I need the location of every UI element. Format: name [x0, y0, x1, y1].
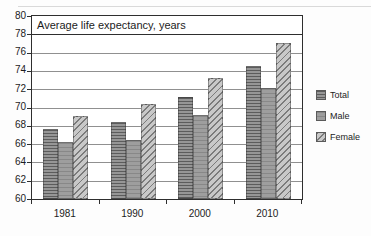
legend-marker-female: [316, 132, 326, 142]
y-axis-tick: [27, 89, 31, 90]
legend-marker-total: [316, 90, 326, 100]
legend: TotalMaleFemale: [316, 90, 360, 153]
x-axis-tick: [166, 200, 167, 204]
bar-female-2000: [208, 78, 223, 199]
bar-total-2010: [246, 66, 261, 199]
y-axis-label: 68: [1, 119, 26, 131]
bar-total-1981: [43, 129, 58, 200]
x-axis-tick: [99, 200, 100, 204]
legend-marker-male: [316, 111, 326, 121]
y-axis-label: 60: [1, 193, 26, 205]
y-axis-tick: [27, 126, 31, 127]
x-axis-label: 2000: [166, 208, 234, 219]
bar-male-1981: [58, 142, 73, 199]
y-axis-tick: [27, 144, 31, 145]
bar-total-1990: [111, 122, 126, 199]
bar-total-2000: [178, 97, 193, 199]
y-axis-label: 76: [1, 46, 26, 58]
y-axis-label: 72: [1, 83, 26, 95]
x-axis-tick: [31, 200, 32, 204]
y-axis-label: 62: [1, 174, 26, 186]
bar-female-1981: [73, 116, 88, 199]
y-axis-tick: [27, 108, 31, 109]
chart-title-box: Average life expectancy, years: [32, 16, 302, 35]
legend-item-male: Male: [316, 111, 360, 121]
gridline-74: [32, 71, 302, 72]
legend-label-total: Total: [330, 90, 349, 100]
y-axis-label: 74: [1, 64, 26, 76]
y-axis-tick: [27, 16, 31, 17]
y-axis-tick: [27, 34, 31, 35]
y-axis-tick: [27, 71, 31, 72]
legend-label-female: Female: [330, 132, 360, 142]
bar-male-2010: [261, 88, 276, 199]
y-axis-label: 64: [1, 156, 26, 168]
chart-title: Average life expectancy, years: [37, 19, 186, 31]
page-edge-line: [18, 6, 371, 7]
y-axis-tick: [27, 162, 31, 163]
bar-male-1990: [126, 140, 141, 199]
legend-item-female: Female: [316, 132, 360, 142]
legend-item-total: Total: [316, 90, 360, 100]
x-axis-tick: [301, 200, 302, 204]
y-axis-label: 80: [1, 10, 26, 22]
life-expectancy-bar-chart: Average life expectancy, years TotalMale…: [0, 0, 371, 236]
y-axis-label: 70: [1, 101, 26, 113]
y-axis-tick: [27, 181, 31, 182]
y-axis-tick: [27, 53, 31, 54]
y-axis-label: 78: [1, 28, 26, 40]
plot-area: Average life expectancy, years: [31, 15, 303, 200]
legend-label-male: Male: [330, 111, 350, 121]
bar-female-2010: [276, 43, 291, 200]
x-axis-tick: [234, 200, 235, 204]
gridline-76: [32, 53, 302, 54]
x-axis-label: 1990: [99, 208, 167, 219]
bar-male-2000: [193, 115, 208, 199]
x-axis-label: 2010: [234, 208, 302, 219]
bar-female-1990: [141, 104, 156, 199]
x-axis-label: 1981: [31, 208, 99, 219]
y-axis-label: 66: [1, 138, 26, 150]
